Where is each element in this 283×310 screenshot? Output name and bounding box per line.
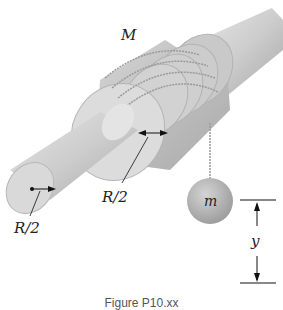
spool-mass-label: M: [120, 26, 137, 44]
hanging-mass-label: m: [204, 193, 217, 209]
figure-caption: Figure P10.xx: [0, 296, 283, 310]
height-label: y: [250, 232, 260, 250]
spool-step-label: R/2: [101, 188, 128, 206]
shaft-radius-label: R/2: [13, 219, 40, 237]
